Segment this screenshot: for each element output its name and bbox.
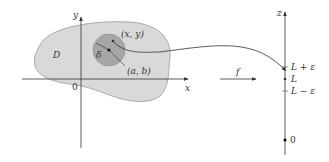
limit-diagram: D δ (x, y) (a, b) 0 x y f z L + ε L L − … <box>0 0 329 162</box>
origin-right-label: 0 <box>290 135 296 145</box>
origin-left-label: 0 <box>72 82 78 92</box>
l-plus-eps-label: L + ε <box>290 62 315 72</box>
point-l <box>284 78 287 81</box>
x-axis-label: x <box>185 83 190 93</box>
region-label: D <box>52 50 60 60</box>
z-axis-label: z <box>276 8 282 18</box>
y-axis-label: y <box>72 10 79 20</box>
point-ab <box>107 48 110 51</box>
l-minus-eps-label: L − ε <box>290 86 315 96</box>
point-ab-label: (a, b) <box>127 66 151 76</box>
delta-label: δ <box>96 50 101 60</box>
point-xy-label: (x, y) <box>121 29 144 39</box>
function-label: f <box>235 67 241 77</box>
l-label: L <box>290 74 297 84</box>
point-zero <box>283 138 286 141</box>
